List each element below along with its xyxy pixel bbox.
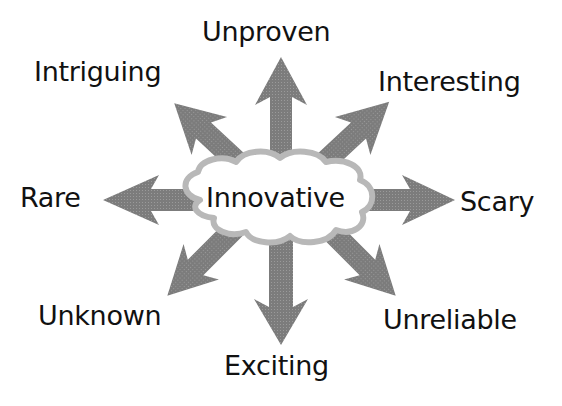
label-scary: Scary [460, 188, 534, 215]
label-exciting: Exciting [224, 352, 329, 379]
label-intriguing: Intriguing [34, 58, 161, 85]
center-label: Innovative [206, 184, 345, 211]
label-unreliable: Unreliable [383, 306, 517, 333]
label-unknown: Unknown [38, 302, 161, 329]
label-interesting: Interesting [378, 68, 521, 95]
label-unproven: Unproven [202, 18, 330, 45]
label-rare: Rare [20, 184, 81, 211]
concept-diagram: Innovative Unproven Interesting Scary Un… [0, 0, 562, 406]
